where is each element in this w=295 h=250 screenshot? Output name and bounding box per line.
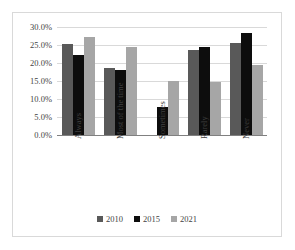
y-axis-tick-label: 20.0% — [30, 59, 52, 68]
legend-swatch-icon — [171, 216, 177, 222]
y-axis-tick-label: 0.0% — [34, 131, 52, 140]
y-axis-tick-label: 15.0% — [30, 77, 52, 86]
bar-2021-always[interactable] — [84, 37, 95, 135]
bar-2010-never[interactable] — [230, 43, 241, 135]
legend-item-2021[interactable]: 2021 — [171, 215, 197, 224]
y-axis-tick-label: 30.0% — [30, 23, 52, 32]
y-axis-tick-label: 10.0% — [30, 95, 52, 104]
legend-item-2015[interactable]: 2015 — [134, 215, 160, 224]
x-axis-tick-label: Always — [74, 113, 83, 139]
chart-container: 0.0%5.0%10.0%15.0%20.0%25.0%30.0% Always… — [12, 12, 282, 237]
bar-2010-always[interactable] — [62, 44, 73, 135]
y-axis: 0.0%5.0%10.0%15.0%20.0%25.0%30.0% — [13, 13, 55, 149]
bar-2021-sometimes[interactable] — [168, 81, 179, 135]
legend-swatch-icon — [134, 216, 140, 222]
bar-2021-most-of-the-time[interactable] — [126, 47, 137, 135]
y-axis-tick-label: 5.0% — [34, 113, 52, 122]
legend-label: 2015 — [143, 215, 160, 224]
legend-label: 2021 — [180, 215, 197, 224]
x-axis: AlwaysMost of the timeSometimesRarelyNev… — [57, 137, 267, 213]
x-axis-tick-label: Sometimes — [158, 101, 167, 139]
bar-2021-never[interactable] — [252, 65, 263, 135]
x-axis-tick-label: Rarely — [200, 116, 209, 139]
x-axis-tick-label: Most of the time — [116, 83, 125, 139]
bar-2010-rarely[interactable] — [188, 50, 199, 135]
bar-2010-most-of-the-time[interactable] — [104, 68, 115, 135]
legend-item-2010[interactable]: 2010 — [97, 215, 123, 224]
y-axis-tick-label: 25.0% — [30, 41, 52, 50]
bar-2021-rarely[interactable] — [210, 82, 221, 135]
x-axis-tick-label: Never — [242, 118, 251, 139]
chart-legend: 201020152021 — [13, 215, 281, 224]
legend-swatch-icon — [97, 216, 103, 222]
legend-label: 2010 — [106, 215, 123, 224]
